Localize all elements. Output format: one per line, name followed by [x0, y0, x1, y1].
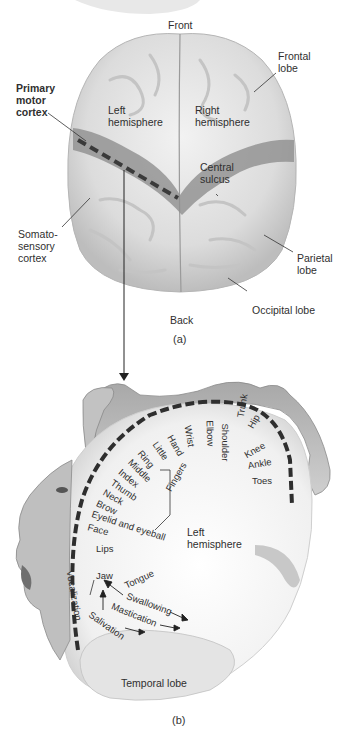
- caption-a: (a): [173, 333, 186, 345]
- label-toes: Toes: [252, 475, 272, 486]
- label-primary-motor-cortex: Primary motor cortex: [16, 82, 55, 118]
- label-occipital-lobe: Occipital lobe: [252, 304, 315, 316]
- label-central-sulcus: Central sulcus: [200, 161, 234, 185]
- top-cloud-shape: [75, 0, 200, 14]
- label-frontal-lobe: Frontal lobe: [278, 50, 311, 74]
- label-somatosensory-cortex: Somato- sensory cortex: [18, 228, 58, 264]
- label-lips: Lips: [96, 543, 113, 554]
- label-jaw: Jaw: [96, 570, 113, 581]
- label-temporal-lobe: Temporal lobe: [121, 677, 187, 689]
- label-front: Front: [168, 19, 193, 31]
- label-back: Back: [170, 314, 193, 326]
- label-left-hemisphere-a: Left hemisphere: [108, 104, 163, 128]
- label-right-hemisphere-a: Right hemisphere: [195, 104, 250, 128]
- label-parietal-lobe: Parietal lobe: [297, 252, 333, 276]
- pointer-arrow-head: [119, 373, 129, 381]
- eye-shape: [56, 487, 68, 493]
- label-elbow: Elbow: [205, 420, 217, 446]
- brain-top-view: [68, 34, 296, 292]
- caption-b: (b): [172, 714, 185, 726]
- label-left-hemisphere-b: Left hemisphere: [187, 526, 242, 550]
- label-shoulder: Shoulder: [220, 424, 231, 462]
